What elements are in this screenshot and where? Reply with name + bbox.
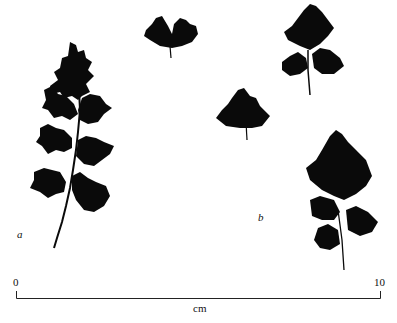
leaf-small-1 [144, 16, 198, 58]
leaf-top-right [282, 4, 344, 95]
leaf-b [306, 130, 378, 270]
leaf-silhouettes [0, 0, 397, 323]
leaf-figure: a b 0 10 cm [0, 0, 397, 323]
label-a: a [17, 228, 23, 240]
scale-start: 0 [13, 276, 19, 288]
scale-bar [17, 291, 381, 299]
leaf-small-2 [216, 88, 270, 140]
label-b: b [258, 211, 264, 223]
leaf-a [30, 42, 114, 248]
scale-unit: cm [193, 302, 206, 314]
scale-end: 10 [374, 276, 385, 288]
